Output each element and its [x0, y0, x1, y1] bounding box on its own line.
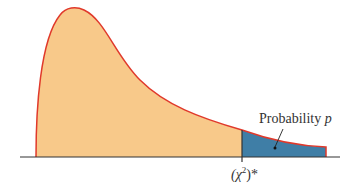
chi-square-diagram: [0, 0, 360, 189]
probability-variable: p: [325, 111, 332, 126]
probability-text: Probability: [259, 111, 325, 126]
critical-value-label: (χ2)*: [231, 165, 258, 183]
tail-probability-label: Probability p: [259, 111, 332, 127]
tail-label-dot: [274, 147, 277, 150]
density-body-area: [36, 8, 242, 157]
critical-open: (χ: [231, 167, 242, 182]
critical-close: )*: [246, 167, 258, 182]
